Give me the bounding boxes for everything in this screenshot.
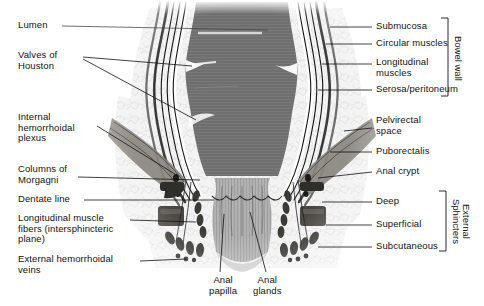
label-superficial: Superficial — [376, 219, 421, 230]
label-dentate-line: Dentate line — [18, 194, 70, 205]
label-pelvirectal-space: Pelvirectal space — [376, 115, 421, 136]
label-internal-hemorrhoidal-plexus: Internal hemorrhoidal plexus — [18, 112, 75, 144]
label-longitudinal-muscles: Longitudinal muscles — [376, 57, 428, 78]
label-external-hemorrhoidal-veins: External hemorrhoidal veins — [18, 254, 113, 275]
label-columns-of-morgagni: Columns of Morgagni — [18, 164, 67, 185]
label-valves-of-houston: Valves of Houston — [18, 50, 57, 71]
label-puborectalis: Puborectalis — [376, 146, 429, 157]
bracket-label-bowel-wall: Bowel wall — [452, 20, 463, 96]
brackets — [439, 18, 448, 251]
label-lumen: Lumen — [18, 20, 48, 31]
label-anal-glands: Anal glands — [253, 275, 282, 296]
anatomy-figure: Lumen Valves of Houston Internal hemorrh… — [0, 0, 484, 306]
label-deep: Deep — [376, 196, 399, 207]
label-circular-muscles: Circular muscles — [376, 38, 448, 49]
bracket-external-sphincters — [439, 191, 446, 251]
label-anal-crypt: Anal crypt — [376, 166, 419, 177]
label-longitudinal-muscle-fibers: Longitudinal muscle fibers (intersphinct… — [18, 213, 113, 245]
bracket-label-external-sphincters: External Sphincters — [450, 188, 471, 254]
label-submucosa: Submucosa — [376, 21, 427, 32]
label-subcutaneous: Subcutaneous — [376, 241, 438, 252]
label-serosa-peritoneum: Serosa/peritoneum — [376, 84, 458, 95]
label-anal-papilla: Anal papilla — [209, 275, 237, 296]
